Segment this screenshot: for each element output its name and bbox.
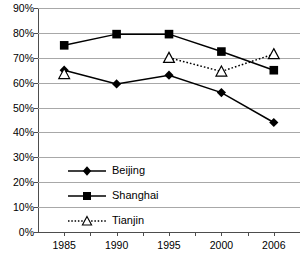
y-axis-label: 70%: [2, 53, 34, 64]
y-axis-label: 10%: [2, 202, 34, 213]
data-point-marker: [112, 79, 121, 88]
data-point-marker: [112, 30, 121, 39]
data-point-marker: [269, 118, 278, 127]
y-axis-label: 30%: [2, 152, 34, 163]
data-point-marker: [217, 88, 226, 97]
x-tick-boundary: [195, 232, 196, 236]
y-axis-label: 40%: [2, 127, 34, 138]
data-point-marker: [270, 66, 279, 75]
legend-key-tianjin: [68, 214, 106, 228]
y-axis-label: 60%: [2, 78, 34, 89]
x-tick-mark: [274, 232, 275, 236]
x-tick-mark: [221, 232, 222, 236]
data-point-marker: [164, 52, 175, 62]
legend-key-shanghai: [68, 189, 106, 203]
legend-item-beijing: Beijing: [68, 158, 188, 183]
legend-label-beijing: Beijing: [112, 165, 145, 176]
chart-legend: Beijing Shanghai Tianjin: [68, 158, 188, 233]
cropped-title-remnant: [40, 0, 270, 3]
legend-item-tianjin: Tianjin: [68, 208, 188, 233]
y-axis-label: 80%: [2, 28, 34, 39]
x-axis-label: 1985: [34, 240, 94, 251]
data-point-marker: [165, 30, 174, 39]
x-axis-label: 1990: [87, 240, 147, 251]
data-point-marker: [268, 49, 279, 59]
legend-label-shanghai: Shanghai: [112, 190, 159, 201]
y-axis-label: 90%: [2, 3, 34, 14]
data-point-marker: [60, 41, 69, 50]
legend-item-shanghai: Shanghai: [68, 183, 188, 208]
data-point-marker: [217, 47, 226, 56]
y-tick-mark: [34, 232, 38, 233]
y-axis-label: 50%: [2, 103, 34, 114]
x-tick-boundary: [248, 232, 249, 236]
data-point-marker: [164, 71, 173, 80]
legend-label-tianjin: Tianjin: [112, 215, 144, 226]
x-axis-label: 2006: [244, 240, 304, 251]
data-point-marker: [216, 66, 227, 76]
x-axis-label: 1995: [139, 240, 199, 251]
legend-key-beijing: [68, 164, 106, 178]
y-axis-label: 20%: [2, 177, 34, 188]
y-axis-label: 0%: [2, 227, 34, 238]
x-axis-label: 2000: [191, 240, 251, 251]
x-tick-mark: [64, 232, 65, 236]
line-chart: 0%10%20%30%40%50%60%70%80%90% 1985199019…: [0, 0, 307, 262]
